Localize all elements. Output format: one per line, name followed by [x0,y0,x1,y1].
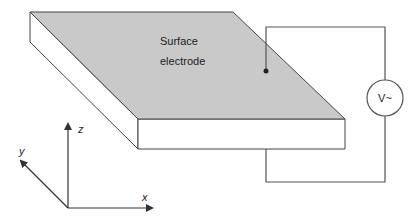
slab-front-face [138,119,345,149]
x-axis-label: x [141,191,148,203]
contact-dot [264,69,269,74]
y-axis-arrow [21,161,68,208]
electrode-label-line1: Surface [160,35,198,47]
z-axis-label: z [77,123,84,135]
y-axis-label: y [18,145,26,157]
diagram-canvas: V~ Surface electrode z x y [0,0,419,224]
source-label: V~ [378,92,392,104]
electrode-label-line2: electrode [160,55,205,67]
